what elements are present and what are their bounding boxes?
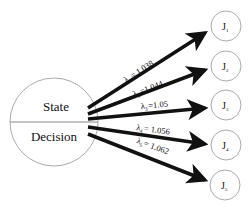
target-node-j2: J2 — [211, 51, 241, 81]
decision-diagram: State Decision λ1= 1.038 λ2=1.044 λ3=1.0… — [0, 0, 250, 209]
target-node-j5: J5 — [210, 170, 240, 200]
decision-label: Decision — [31, 129, 78, 144]
state-decision-node: State Decision — [10, 78, 98, 166]
target-node-j1: J1 — [211, 11, 241, 41]
target-nodes: J1 J2 J3 J4 J5 — [210, 11, 241, 200]
target-node-j3: J3 — [211, 90, 241, 120]
edge-label-2: λ2=1.044 — [131, 78, 165, 100]
target-node-j4: J4 — [211, 130, 241, 160]
state-label: State — [43, 99, 69, 114]
edge-label-3: λ3=1.05 — [140, 99, 168, 112]
